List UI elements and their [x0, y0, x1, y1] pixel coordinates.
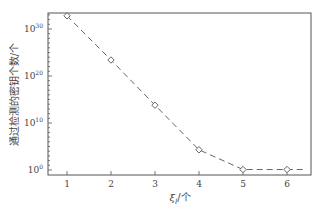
x-tick-label: 5	[240, 179, 246, 189]
y-axis-label: 通过检测的密钥个数/个	[6, 13, 22, 175]
x-tick-label: 3	[152, 179, 158, 189]
plot-frame	[48, 13, 311, 175]
data-point-diamond	[284, 166, 290, 172]
x-tick-label: 6	[284, 179, 290, 189]
x-axis-label: ξl/个	[150, 189, 210, 206]
x-tick-label: 4	[196, 179, 202, 189]
x-tick-label: 1	[64, 179, 70, 189]
y-tick-label: 1030	[24, 22, 43, 34]
series-line	[67, 16, 307, 170]
y-tick-label: 1010	[24, 116, 43, 128]
x-axis-unit: /个	[177, 192, 190, 203]
x-tick-label: 2	[108, 179, 114, 189]
plot-area: 100101010201030123456	[0, 0, 325, 214]
y-axis-label-text: 通过检测的密钥个数/个	[7, 42, 22, 145]
y-tick-label: 100	[28, 163, 43, 175]
y-tick-label: 1020	[24, 69, 43, 81]
data-point-diamond	[240, 166, 246, 172]
chart: 100101010201030123456 通过检测的密钥个数/个 ξl/个	[0, 0, 325, 214]
